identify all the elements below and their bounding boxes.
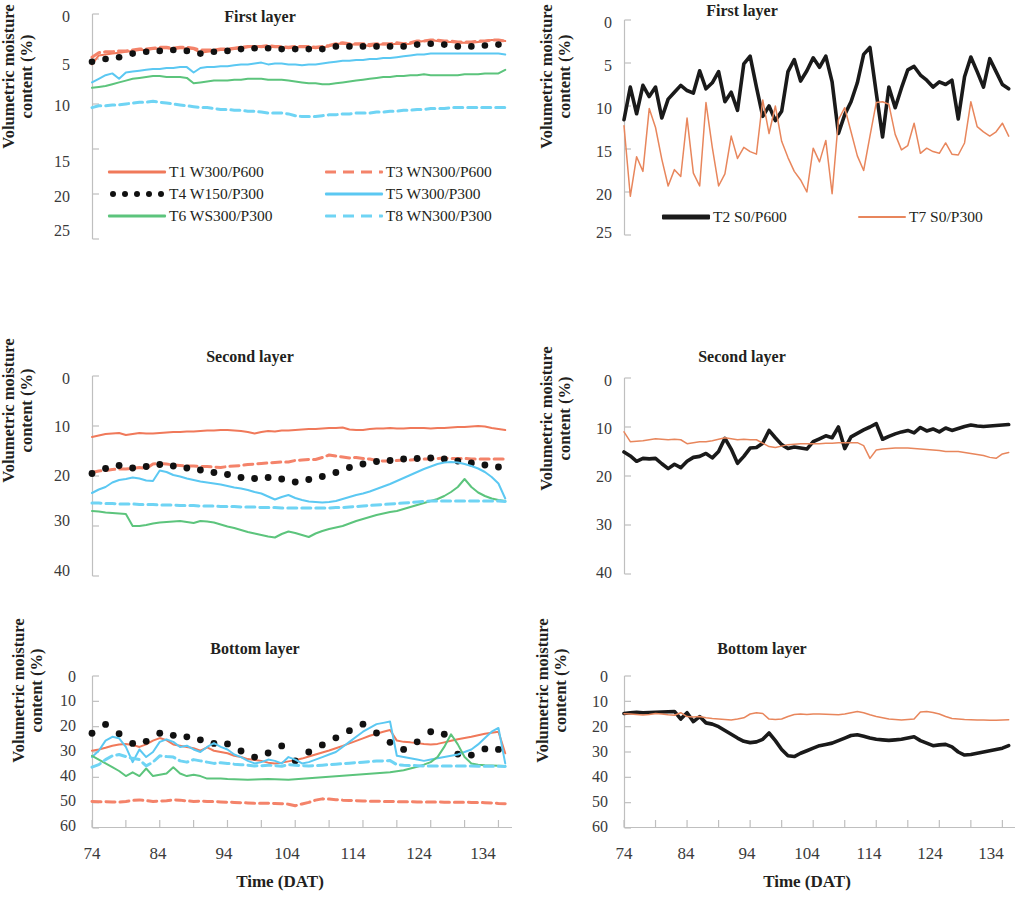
panel-bottom-left: Volumetric moisturecontent (%) Bottom la… xyxy=(0,620,512,915)
legend-label-t2: T2 S0/P600 xyxy=(710,208,806,226)
legend-label-t6: T6 WS300/P300 xyxy=(166,207,289,225)
legend-swatch-t3 xyxy=(325,165,383,179)
legend-label-t3: T3 WN300/P600 xyxy=(383,163,508,181)
legend-gap xyxy=(289,194,325,195)
legend-swatch-t4 xyxy=(108,187,166,201)
x-axis-title: Time (DAT) xyxy=(190,872,370,892)
panel-title: Second layer xyxy=(652,348,832,366)
legend-top-left: T1 W300/P600 T3 WN300/P600 T4 W150/P300 … xyxy=(108,163,508,225)
legend-swatch-t1 xyxy=(108,165,166,179)
figure-moisture-panels: Volumetric moisturecontent (%) First lay… xyxy=(0,0,1015,915)
legend-label-t4: T4 W150/P300 xyxy=(166,185,289,203)
legend-swatch-t7 xyxy=(858,210,906,224)
legend-label-t8: T8 WN300/P300 xyxy=(383,207,508,225)
panel-title: Second layer xyxy=(160,348,340,366)
legend-swatch-t8 xyxy=(325,209,383,223)
legend-gap xyxy=(289,216,325,217)
legend-swatch-t5 xyxy=(325,187,383,201)
plot-area-top-right xyxy=(624,20,1015,235)
panel-bottom-right: Volumetric moisturecontent (%) Bottom la… xyxy=(512,620,1015,915)
legend-swatch-t2 xyxy=(662,210,710,224)
legend-label-t7: T7 S0/P300 xyxy=(906,208,1002,226)
panel-middle-left: Volumetric moisturecontent (%) Second la… xyxy=(0,340,512,595)
x-axis-title: Time (DAT) xyxy=(717,872,897,892)
y-axis-title: Volumetric moisturecontent (%) xyxy=(538,0,575,156)
legend-label-t5: T5 W300/P300 xyxy=(383,185,508,203)
panel-title: First layer xyxy=(652,2,832,20)
panel-title: Bottom layer xyxy=(672,640,852,658)
legend-swatch-t6 xyxy=(108,209,166,223)
legend-top-right: T2 S0/P600 T7 S0/P300 xyxy=(662,208,1002,226)
legend-label-t1: T1 W300/P600 xyxy=(166,163,289,181)
y-axis-title: Volumetric moisturecontent (%) xyxy=(538,338,575,498)
plot-area-bottom-left xyxy=(92,676,512,828)
legend-gap xyxy=(289,172,325,173)
panel-top-left: Volumetric moisturecontent (%) First lay… xyxy=(0,0,512,255)
panel-top-right: Volumetric moisturecontent (%) First lay… xyxy=(512,0,1015,255)
plot-area-middle-left xyxy=(92,376,512,576)
legend-gap xyxy=(806,217,858,218)
plot-area-middle-right xyxy=(624,378,1015,574)
y-axis-title: Volumetric moisturecontent (%) xyxy=(534,610,571,770)
panel-title: Bottom layer xyxy=(165,640,345,658)
panel-middle-right: Volumetric moisturecontent (%) Second la… xyxy=(512,340,1015,595)
plot-area-bottom-right xyxy=(624,676,1015,828)
